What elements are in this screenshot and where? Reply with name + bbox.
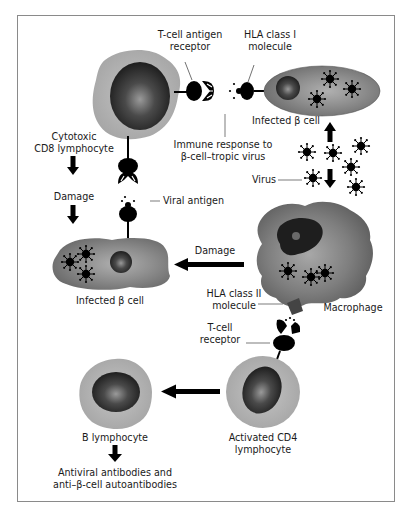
immune-diagram bbox=[0, 0, 407, 518]
label-cytotoxic-cd8: CytotoxicCD8 lymphocyte bbox=[28, 131, 120, 155]
activated-cd4-cell bbox=[226, 356, 300, 428]
label-infected-beta-cell-left: Infected β cell bbox=[70, 295, 150, 307]
label-virus: Virus bbox=[230, 174, 276, 186]
infected-beta-cell-top-shape bbox=[264, 66, 380, 116]
label-activated-cd4: Activated CD4lymphocyte bbox=[218, 432, 308, 456]
cd8-lymphocyte-cell bbox=[93, 50, 181, 139]
label-infected-beta-cell-top: Infected β cell bbox=[250, 115, 322, 127]
label-viral-antigen: Viral antigen bbox=[163, 195, 224, 207]
hla-class1-icon bbox=[229, 65, 264, 100]
label-hla-class1: HLA class Imolecule bbox=[230, 29, 310, 53]
damage-arrow-middle-icon bbox=[174, 258, 244, 271]
label-hla-class2: HLA class IImolecule bbox=[196, 288, 272, 312]
damage-arrow-bottom-icon bbox=[67, 205, 79, 224]
arrow-b-to-antibodies-icon bbox=[108, 445, 122, 462]
infected-beta-cell-left-shape bbox=[53, 238, 170, 290]
cd8-tcr-complex-icon bbox=[118, 136, 160, 238]
label-damage-left: Damage bbox=[45, 191, 103, 203]
label-tcell-receptor: T-cellreceptor bbox=[194, 322, 246, 346]
label-immune-response: Immune response toβ-cell–tropic virus bbox=[170, 139, 276, 163]
macrophage-shape bbox=[257, 202, 373, 307]
label-macrophage: Macrophage bbox=[318, 302, 388, 314]
arrow-down-icon bbox=[324, 169, 336, 188]
label-tcell-antigen-receptor: T-cell antigenreceptor bbox=[140, 29, 240, 53]
b-lymphocyte-cell bbox=[79, 359, 152, 429]
label-antibodies: Antiviral antibodies andanti–β-cell auto… bbox=[50, 467, 180, 491]
arrow-cd4-to-b-icon bbox=[161, 385, 220, 399]
damage-arrow-top-icon bbox=[67, 156, 79, 175]
arrow-up-icon bbox=[324, 122, 336, 142]
label-damage-middle: Damage bbox=[185, 245, 245, 257]
virus-cluster-icon bbox=[298, 137, 370, 196]
label-b-lymphocyte: B lymphocyte bbox=[70, 432, 160, 444]
